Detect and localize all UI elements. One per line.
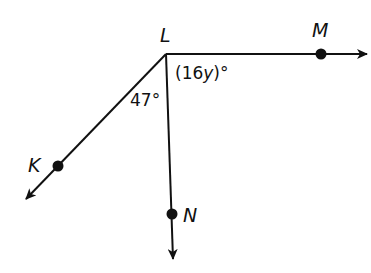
angle-kln-label: 47° — [130, 90, 160, 110]
point-m-dot — [316, 49, 327, 60]
ray-lk — [26, 54, 166, 199]
ray-ln — [166, 54, 173, 259]
point-n-dot — [167, 209, 178, 220]
label-n: N — [183, 204, 197, 226]
label-m: M — [312, 19, 328, 41]
diagram-canvas: L M K N (16y)° 47° — [0, 0, 371, 273]
angle-mln-label: (16y)° — [175, 63, 228, 83]
label-k: K — [28, 154, 42, 176]
point-k-dot — [53, 161, 64, 172]
label-l: L — [160, 24, 171, 46]
angle-diagram: L M K N (16y)° 47° — [0, 0, 371, 273]
